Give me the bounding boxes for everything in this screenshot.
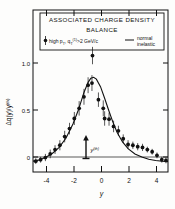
data-point: [68, 127, 72, 131]
x-ticklabel-0: 0: [100, 177, 104, 184]
data-point-group: [34, 47, 168, 164]
data-point: [77, 106, 81, 110]
data-point: [126, 143, 130, 147]
y-ticklabel-1: 1.0: [22, 61, 31, 67]
data-point: [112, 125, 116, 129]
data-point: [117, 129, 121, 133]
data-point: [103, 117, 107, 121]
figure-container: ASSOCIATED CHARGE DENSITY BALANCE high p…: [0, 0, 175, 209]
legend-label-data: high pT, qT(1)>2 GeV/c: [49, 38, 98, 46]
legend-item-data: high pT, qT(1)>2 GeV/c: [44, 36, 99, 46]
data-point: [86, 83, 90, 87]
y-axis-label: Δq(y)/y(th): [5, 98, 13, 125]
chart-title: ASSOCIATED CHARGE DENSITY: [49, 16, 155, 23]
data-point: [107, 117, 111, 121]
data-point: [90, 81, 94, 85]
data-point: [72, 117, 76, 121]
data-point: [145, 148, 149, 152]
data-point: [53, 148, 57, 152]
up-arrow-head-icon: [83, 135, 89, 141]
data-point: [101, 106, 105, 110]
legend-label-curve-line2: inelastic: [137, 41, 156, 47]
data-point: [136, 145, 140, 149]
legend-item-curve: normal inelastic: [125, 35, 156, 47]
data-point: [155, 153, 159, 157]
data-point: [160, 158, 164, 162]
data-point: [34, 159, 38, 163]
y-ticklabel-0-5: 0.5: [22, 108, 31, 114]
y-ticklabel-0: 0: [27, 155, 31, 161]
x-axis-label: y: [99, 190, 104, 198]
legend-marker-icon: [44, 39, 48, 43]
annotation-label: y(th): [90, 147, 100, 153]
data-point: [58, 143, 62, 147]
data-point: [131, 143, 135, 147]
data-point: [63, 135, 67, 139]
data-point: [150, 150, 154, 154]
y-axis: 1.0 0.5 0: [22, 61, 168, 161]
data-point: [82, 95, 86, 99]
data-point: [39, 158, 43, 162]
data-point: [97, 98, 101, 102]
data-point: [164, 159, 168, 163]
x-ticklabel-2: 2: [127, 177, 131, 184]
annotation-y-th: y(th): [83, 135, 100, 159]
x-ticklabel-neg2: -2: [71, 177, 77, 184]
chart-subtitle: BALANCE: [86, 26, 118, 33]
chart-svg: ASSOCIATED CHARGE DENSITY BALANCE high p…: [0, 0, 175, 209]
data-point: [44, 156, 48, 160]
data-point: [48, 152, 52, 156]
data-point: [141, 146, 145, 150]
data-point: [91, 54, 95, 58]
x-ticklabel-4: 4: [155, 177, 159, 184]
data-point: [121, 137, 125, 141]
x-ticklabel-neg4: -4: [44, 177, 50, 184]
